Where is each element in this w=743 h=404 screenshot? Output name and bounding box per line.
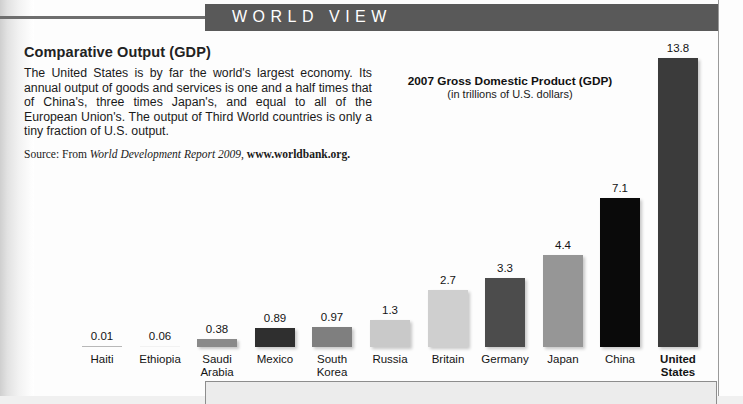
lower-content-box: [205, 381, 717, 404]
category-label-south-korea: South Korea: [303, 353, 361, 378]
category-label-ethiopia: Ethiopia: [131, 353, 189, 366]
bar-value-saudi-arabia: 0.38: [187, 323, 247, 335]
bar-saudi-arabia: [197, 339, 237, 347]
category-label-united-states: United States: [649, 353, 707, 378]
bar-mexico: [255, 328, 295, 347]
bar-south-korea: [312, 327, 352, 347]
bar-value-germany: 3.3: [475, 262, 535, 274]
bar-russia: [370, 320, 410, 347]
bar-japan: [543, 255, 583, 347]
category-label-russia: Russia: [361, 353, 419, 366]
bar-chart: 0.01Haiti0.06Ethiopia0.38Saudi Arabia0.8…: [0, 0, 743, 404]
bar-value-ethiopia: 0.06: [130, 330, 190, 342]
bar-united-states: [658, 58, 698, 347]
bar-britain: [428, 290, 468, 347]
bar-value-south-korea: 0.97: [302, 311, 362, 323]
bar-ethiopia: [140, 346, 180, 347]
bar-germany: [485, 278, 525, 347]
bar-value-haiti: 0.01: [72, 330, 132, 342]
category-label-saudi-arabia: Saudi Arabia: [188, 353, 246, 378]
bar-value-britain: 2.7: [418, 274, 478, 286]
bar-haiti: [82, 346, 122, 347]
category-label-japan: Japan: [534, 353, 592, 366]
bar-value-china: 7.1: [590, 182, 650, 194]
bar-value-japan: 4.4: [533, 239, 593, 251]
category-label-china: China: [591, 353, 649, 366]
bar-value-united-states: 13.8: [648, 42, 708, 54]
bar-value-russia: 1.3: [360, 304, 420, 316]
category-label-britain: Britain: [419, 353, 477, 366]
bar-value-mexico: 0.89: [245, 312, 305, 324]
category-label-germany: Germany: [476, 353, 534, 366]
category-label-mexico: Mexico: [246, 353, 304, 366]
page-background: WORLD VIEW Comparative Output (GDP) The …: [0, 0, 743, 404]
category-label-haiti: Haiti: [73, 353, 131, 366]
bar-china: [600, 198, 640, 347]
